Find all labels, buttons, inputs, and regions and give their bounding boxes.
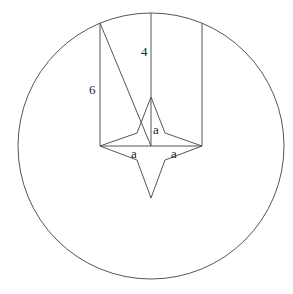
label-a-vertical: a <box>153 122 159 137</box>
geometry-diagram: 4 6 a a a <box>0 0 293 294</box>
diagonal-line <box>100 23 151 146</box>
label-6: 6 <box>89 82 96 97</box>
label-a-right: a <box>171 146 177 161</box>
label-a-left: a <box>131 146 137 161</box>
label-4: 4 <box>141 44 148 59</box>
